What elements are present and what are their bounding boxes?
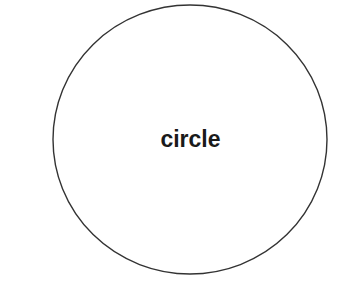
circle-node[interactable]: circle xyxy=(53,5,327,274)
diagram-canvas: circle xyxy=(0,0,353,288)
circle-label: circle xyxy=(160,126,220,152)
